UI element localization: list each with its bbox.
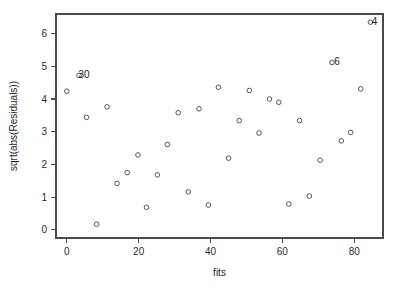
- y-tick-label: 6: [41, 28, 47, 39]
- y-axis-ticks: 0123456: [41, 28, 56, 235]
- x-axis-ticks: 020406080: [64, 238, 360, 257]
- point-index-label: 30: [78, 69, 90, 80]
- data-point: [358, 87, 363, 92]
- data-point: [155, 173, 160, 178]
- chart-canvas: 020406080 0123456 3064 fits sqrt(abs(Res…: [0, 0, 403, 289]
- x-tick-label: 0: [64, 246, 70, 257]
- y-tick-label: 0: [41, 224, 47, 235]
- data-point: [257, 131, 262, 136]
- data-point: [318, 158, 323, 163]
- data-point: [216, 85, 221, 90]
- y-axis-title: sqrt(abs(Residuals)): [8, 81, 19, 171]
- data-point: [176, 110, 181, 115]
- plot-frame: [56, 14, 383, 238]
- data-point: [267, 97, 272, 102]
- x-tick-label: 20: [133, 246, 145, 257]
- data-point: [94, 222, 99, 227]
- data-point: [247, 88, 252, 93]
- data-point: [226, 156, 231, 161]
- data-point: [165, 142, 170, 147]
- data-point: [237, 118, 242, 123]
- data-point: [287, 202, 292, 207]
- x-axis-title: fits: [213, 267, 226, 278]
- x-tick-label: 80: [349, 246, 361, 257]
- data-point: [186, 190, 191, 195]
- scatter-plot-figure: 020406080 0123456 3064 fits sqrt(abs(Res…: [0, 0, 403, 289]
- y-tick-label: 5: [41, 61, 47, 72]
- data-point: [206, 203, 211, 208]
- data-point: [307, 194, 312, 199]
- y-tick-label: 1: [41, 192, 47, 203]
- x-tick-label: 60: [277, 246, 289, 257]
- point-annotations: 3064: [78, 16, 377, 80]
- data-points: [64, 20, 372, 227]
- data-point: [144, 205, 149, 210]
- x-tick-label: 40: [205, 246, 217, 257]
- data-point: [64, 89, 69, 94]
- point-index-label: 6: [334, 56, 340, 67]
- point-index-label: 4: [372, 16, 378, 27]
- y-tick-label: 2: [41, 159, 47, 170]
- plot-border: [56, 14, 383, 238]
- data-point: [276, 100, 281, 105]
- data-point: [297, 118, 302, 123]
- data-point: [348, 130, 353, 135]
- data-point: [339, 139, 344, 144]
- data-point: [136, 153, 141, 158]
- data-point: [197, 107, 202, 112]
- data-point: [105, 105, 110, 110]
- y-tick-label: 4: [41, 94, 47, 105]
- data-point: [115, 181, 120, 186]
- data-point: [84, 115, 89, 120]
- y-tick-label: 3: [41, 126, 47, 137]
- data-point: [125, 170, 130, 175]
